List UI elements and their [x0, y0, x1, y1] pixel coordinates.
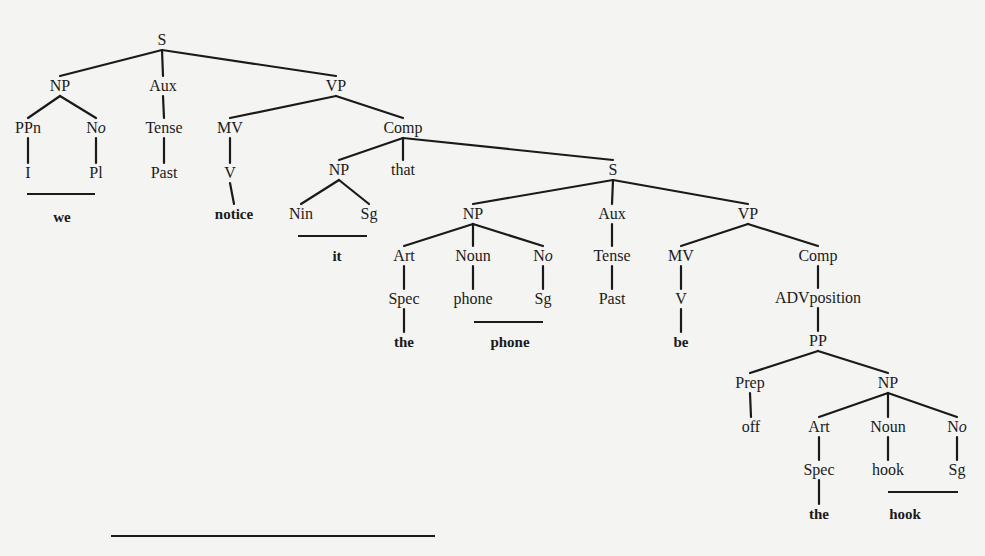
node-label: VP — [326, 77, 346, 94]
node-label: N — [947, 418, 959, 435]
tree-node-sg1: Sg — [361, 206, 378, 222]
node-label-italic: o — [98, 119, 106, 136]
tree-node-tense2: Tense — [593, 248, 630, 264]
node-label: Sg — [361, 205, 378, 222]
tree-node-nin1: Nin — [289, 206, 313, 222]
leaf-word-the1: the — [394, 334, 414, 350]
node-label: N — [533, 247, 545, 264]
tree-node-np2: NP — [329, 162, 349, 178]
tree-node-aux1: Aux — [149, 78, 177, 94]
tree-node-no3: No — [947, 419, 967, 435]
tree-edge — [162, 50, 336, 76]
tree-node-s1: S — [158, 32, 167, 48]
merge-bar — [27, 193, 95, 195]
node-label-italic: o — [959, 418, 967, 435]
tree-node-s2: S — [609, 162, 618, 178]
tree-node-v1: V — [224, 165, 236, 181]
syntax-tree-diagram — [0, 0, 985, 556]
node-label: the — [394, 334, 414, 350]
node-label: Aux — [598, 205, 626, 222]
tree-node-np3: NP — [463, 206, 483, 222]
tree-node-noun2: Noun — [870, 419, 906, 435]
node-label: Spec — [803, 461, 834, 478]
tree-node-sg3: Sg — [949, 462, 966, 478]
tree-node-off1: off — [742, 419, 760, 435]
node-label: Prep — [735, 374, 764, 391]
node-label: Pl — [89, 164, 102, 181]
node-label: S — [609, 161, 618, 178]
node-label: PP — [809, 332, 827, 349]
node-label: I — [25, 164, 30, 181]
node-label: the — [809, 506, 829, 522]
leaf-word-phone2: phone — [490, 334, 529, 350]
tree-edge — [473, 224, 543, 246]
tree-node-ppn1: PPn — [15, 120, 41, 136]
node-label: Sg — [535, 290, 552, 307]
node-label: NP — [50, 77, 70, 94]
node-label: Art — [808, 418, 829, 435]
tree-node-that1: that — [391, 162, 415, 178]
tree-edge — [60, 50, 162, 76]
tree-node-no2: No — [533, 248, 553, 264]
tree-edge — [819, 393, 888, 417]
node-label: Noun — [870, 418, 906, 435]
node-label: Comp — [798, 247, 837, 264]
node-label: be — [674, 334, 689, 350]
leaf-word-it: it — [332, 248, 341, 264]
tree-node-mv1: MV — [217, 120, 243, 136]
tree-edge — [888, 393, 957, 417]
tree-edge — [339, 180, 369, 204]
node-label: V — [224, 164, 236, 181]
node-label: N — [86, 119, 98, 136]
node-label-italic: o — [545, 247, 553, 264]
node-label: it — [332, 248, 341, 264]
tree-edge — [750, 393, 751, 417]
tree-node-vp2: VP — [738, 206, 758, 222]
tree-edge — [750, 351, 818, 373]
merge-bar — [298, 235, 367, 237]
tree-node-i1: I — [25, 165, 30, 181]
node-label: that — [391, 161, 415, 178]
tree-node-advposition1: ADVposition — [775, 290, 861, 306]
node-label: Aux — [149, 77, 177, 94]
merge-bar — [888, 491, 958, 493]
node-label: Sg — [949, 461, 966, 478]
node-label: Past — [599, 290, 626, 307]
tree-node-art2: Art — [808, 419, 829, 435]
tree-node-noun1: Noun — [455, 248, 491, 264]
node-label: Past — [151, 164, 178, 181]
node-label: Noun — [455, 247, 491, 264]
tree-node-no1: No — [86, 120, 106, 136]
tree-node-hook1: hook — [872, 462, 904, 478]
tree-edge — [28, 96, 60, 118]
tree-edge — [301, 180, 339, 204]
tree-node-phone1: phone — [453, 291, 492, 307]
node-label: Spec — [388, 290, 419, 307]
node-label: Tense — [145, 119, 182, 136]
tree-edge — [613, 180, 748, 204]
tree-node-spec2: Spec — [803, 462, 834, 478]
tree-edge — [612, 180, 613, 204]
node-label: Nin — [289, 205, 313, 222]
tree-node-v2: V — [675, 291, 687, 307]
leaf-word-hook2: hook — [889, 506, 921, 522]
node-label: Comp — [383, 119, 422, 136]
node-label: MV — [668, 247, 694, 264]
node-label: ADVposition — [775, 289, 861, 306]
node-label: hook — [889, 506, 921, 522]
tree-node-pl1: Pl — [89, 165, 102, 181]
node-label: notice — [215, 206, 253, 222]
tree-edge — [230, 183, 234, 204]
leaf-word-we: we — [53, 209, 71, 225]
node-label: NP — [463, 205, 483, 222]
tree-node-np1: NP — [50, 78, 70, 94]
leaf-word-notice: notice — [215, 206, 253, 222]
tree-edge — [60, 96, 96, 118]
tree-node-comp2: Comp — [798, 248, 837, 264]
tree-node-past2: Past — [599, 291, 626, 307]
tree-node-mv2: MV — [668, 248, 694, 264]
tree-edge — [404, 224, 473, 246]
tree-node-prep1: Prep — [735, 375, 764, 391]
node-label: Art — [393, 247, 414, 264]
tree-edge — [163, 96, 164, 118]
